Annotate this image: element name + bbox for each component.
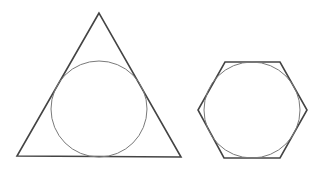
hexagon-shape xyxy=(198,62,307,158)
triangle-inscribed-circle xyxy=(51,61,147,157)
hexagon-inscribed-circle xyxy=(204,62,300,158)
triangle-shape xyxy=(17,13,181,157)
diagram-svg xyxy=(0,0,324,169)
diagram-canvas xyxy=(0,0,324,169)
